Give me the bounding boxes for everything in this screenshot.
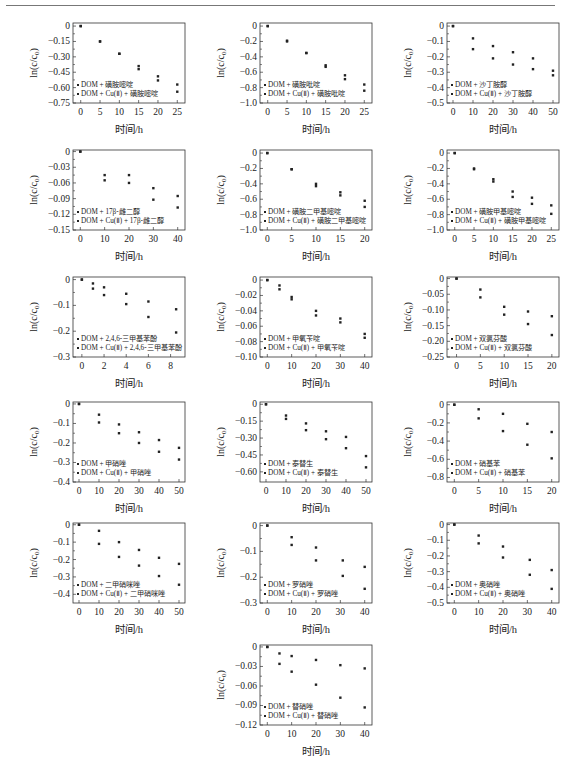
- data-point: [99, 40, 101, 42]
- y-tick-label: −0.6: [240, 67, 257, 77]
- x-tick-label: 40: [341, 486, 351, 496]
- x-tick-label: 30: [336, 361, 346, 371]
- legend-entry: DOM + Cu(Ⅱ) + 甲氧苄啶: [268, 343, 345, 352]
- data-point: [526, 444, 528, 446]
- y-tick-label: −0.2: [240, 572, 257, 582]
- y-tick-label: −0.06: [235, 681, 257, 691]
- data-point: [285, 414, 287, 416]
- data-point: [479, 296, 481, 298]
- chart-panel-4: 0−0.03−0.06−0.09−0.12−0.15010203040ln(c/…: [0, 145, 187, 273]
- y-axis-label: ln(c/c0): [28, 427, 41, 457]
- data-point: [158, 575, 160, 577]
- x-tick-label: 30: [508, 107, 518, 117]
- y-tick-label: −0.15: [235, 416, 257, 426]
- x-tick-label: 10: [302, 107, 312, 117]
- x-axis-label: 时间/h: [115, 623, 144, 635]
- data-point: [550, 204, 552, 206]
- x-tick-label: 0: [265, 234, 270, 244]
- y-tick-label: −0.08: [235, 337, 257, 347]
- x-tick-label: 10: [287, 729, 297, 739]
- data-point: [158, 557, 160, 559]
- data-point: [551, 315, 553, 317]
- x-tick-label: 0: [265, 729, 270, 739]
- data-point: [315, 546, 317, 548]
- data-point: [137, 65, 139, 67]
- x-tick-label: 30: [321, 486, 331, 496]
- data-point: [363, 83, 365, 85]
- x-axis-label: 时间/h: [302, 623, 331, 635]
- y-tick-label: 0: [439, 520, 444, 530]
- data-point: [365, 466, 367, 468]
- x-tick-label: 15: [523, 486, 533, 496]
- y-tick-label: −0.20: [422, 336, 444, 346]
- y-tick-label: −0.45: [235, 450, 257, 460]
- data-point: [512, 63, 514, 65]
- y-tick-label: −0.25: [422, 352, 444, 362]
- data-point: [512, 51, 514, 53]
- data-point: [477, 408, 479, 410]
- data-point: [92, 287, 94, 289]
- data-point: [454, 152, 456, 154]
- y-tick-label: −0.2: [427, 418, 444, 428]
- data-point: [103, 174, 105, 176]
- y-tick-label: −0.1: [240, 546, 257, 556]
- x-tick-label: 0: [78, 107, 83, 117]
- data-point: [178, 458, 180, 460]
- x-axis-label: 时间/h: [489, 623, 518, 635]
- y-tick-label: −0.30: [48, 52, 70, 62]
- data-point: [492, 178, 494, 180]
- legend-entry: DOM + 磺胺甲基嘧啶: [455, 207, 521, 216]
- data-point: [118, 556, 120, 558]
- data-point: [363, 566, 365, 568]
- x-tick-label: 25: [547, 234, 557, 244]
- y-axis-label: ln(c/c0): [215, 548, 228, 578]
- data-point: [315, 683, 317, 685]
- y-tick-label: −0.5: [427, 98, 444, 108]
- legend-entry: DOM + 沙丁胺醇: [455, 80, 507, 89]
- y-tick-label: −0.06: [235, 321, 257, 331]
- y-tick-label: −0.3: [53, 572, 70, 582]
- y-tick-label: 0: [252, 148, 257, 158]
- data-point: [138, 549, 140, 551]
- data-point: [290, 655, 292, 657]
- x-axis-label: 时间/h: [115, 250, 144, 262]
- chart-panel-15: 0−0.1−0.2−0.3−0.4−0.5010203040ln(c/c0)时间…: [374, 518, 561, 646]
- y-tick-label: 0: [252, 642, 257, 652]
- legend-entry: DOM + Cu(Ⅱ) + 磺胺吡啶: [268, 89, 345, 98]
- chart-panel-16: 0−0.03−0.06−0.09−0.12010203040ln(c/c0)时间…: [187, 640, 374, 768]
- y-tick-label: −0.60: [235, 467, 257, 477]
- data-point: [157, 75, 159, 77]
- data-point: [98, 413, 100, 415]
- legend-entry: DOM + Cu(Ⅱ) + 双氯芬酸: [455, 343, 532, 352]
- chart-panel-14: 0−0.1−0.2−0.3010203040ln(c/c0)时间/hDOM + …: [187, 518, 374, 646]
- data-point: [479, 288, 481, 290]
- y-axis-label: ln(c/c0): [28, 548, 41, 578]
- data-point: [492, 180, 494, 182]
- data-point: [266, 646, 268, 648]
- x-tick-label: 30: [149, 234, 159, 244]
- data-point: [315, 310, 317, 312]
- data-point: [118, 53, 120, 55]
- x-tick-label: 0: [77, 607, 82, 617]
- data-point: [344, 74, 346, 76]
- data-point: [178, 563, 180, 565]
- legend-entry: DOM + 2,4,6-三甲基苯酚: [81, 334, 158, 343]
- y-tick-label: −0.6: [240, 194, 257, 204]
- y-tick-label: −0.2: [53, 326, 70, 336]
- y-tick-label: −0.15: [422, 321, 444, 331]
- x-tick-label: 0: [78, 234, 83, 244]
- data-point: [267, 25, 269, 27]
- data-point: [550, 213, 552, 215]
- y-tick-label: −0.09: [48, 194, 70, 204]
- data-point: [552, 74, 554, 76]
- x-tick-label: 50: [548, 107, 558, 117]
- legend-entry: DOM + 甲氧苄啶: [268, 334, 320, 343]
- data-point: [118, 541, 120, 543]
- x-tick-label: 20: [527, 234, 537, 244]
- data-point: [103, 179, 105, 181]
- data-point: [453, 523, 455, 525]
- data-point: [80, 25, 82, 27]
- data-point: [363, 89, 365, 91]
- data-point: [315, 659, 317, 661]
- x-tick-label: 0: [265, 607, 270, 617]
